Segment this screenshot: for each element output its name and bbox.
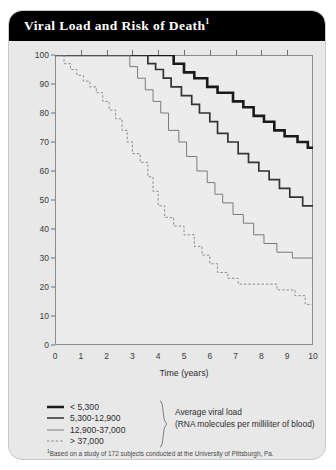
legend-items: < 5,3005,300-12,90012,900-37,000> 37,000 — [47, 401, 159, 447]
x-tick-label: 2 — [104, 351, 109, 361]
legend-line-swatch — [47, 427, 64, 433]
y-tick-label: 50 — [40, 195, 49, 205]
legend-line-swatch — [47, 438, 64, 444]
x-tick-label: 4 — [156, 351, 161, 361]
y-tick-mark — [51, 113, 55, 114]
x-tick-mark — [132, 50, 133, 55]
y-tick-label: 30 — [40, 253, 49, 263]
x-axis-title: Time (years) — [55, 368, 313, 378]
y-tick-mark — [51, 200, 55, 201]
x-tick-mark — [261, 50, 262, 55]
y-tick-label: 20 — [40, 282, 49, 292]
legend-note: Average viral load (RNA molecules per mi… — [175, 407, 315, 430]
y-tick-label: 0 — [44, 340, 49, 350]
y-tick-mark — [51, 316, 55, 317]
x-tick-mark — [287, 50, 288, 55]
x-tick-mark — [184, 50, 185, 55]
y-tick-mark — [51, 287, 55, 288]
x-tick-label: 5 — [182, 351, 187, 361]
y-tick-label: 70 — [40, 137, 49, 147]
x-tick-label: 9 — [285, 351, 290, 361]
legend-item: 5,300-12,900 — [47, 413, 159, 425]
y-tick-label: 10 — [40, 311, 49, 321]
legend-note-line-2: (RNA molecules per milliliter of blood) — [175, 419, 315, 431]
legend-item-label: 12,900-37,000 — [70, 425, 125, 435]
y-tick-label: 90 — [40, 79, 49, 89]
legend-item-label: < 5,300 — [70, 402, 99, 412]
y-tick-mark — [51, 84, 55, 85]
y-tick-label: 60 — [40, 166, 49, 176]
legend-item: < 5,300 — [47, 401, 159, 413]
y-axis-title: Percentage of HIV-infected individuals s… — [18, 10, 30, 55]
y-tick-mark — [51, 142, 55, 143]
plot-area: 0102030405060708090100 012345678910 — [55, 55, 313, 345]
footnote-text: Based on a study of 172 subjects conduct… — [50, 450, 274, 457]
title-bar: Viral Load and Risk of Death1 — [9, 11, 325, 41]
x-tick-mark — [158, 50, 159, 55]
x-tick-label: 0 — [53, 351, 58, 361]
y-tick-label: 100 — [35, 50, 49, 60]
legend-line-swatch — [47, 404, 64, 410]
chart-card: Viral Load and Risk of Death1 Percentage… — [8, 10, 326, 460]
y-tick-mark — [51, 171, 55, 172]
x-tick-label: 10 — [308, 351, 317, 361]
x-tick-label: 8 — [259, 351, 264, 361]
y-tick-label: 40 — [40, 224, 49, 234]
x-tick-mark — [107, 50, 108, 55]
legend-item: > 37,000 — [47, 436, 159, 448]
x-tick-label: 7 — [233, 351, 238, 361]
x-tick-mark — [236, 50, 237, 55]
y-tick-mark — [51, 345, 55, 346]
legend-item: 12,900-37,000 — [47, 424, 159, 436]
x-tick-mark — [81, 50, 82, 55]
page-title: Viral Load and Risk of Death1 — [24, 17, 210, 34]
legend-item-label: 5,300-12,900 — [70, 413, 121, 423]
footnote: 1Based on a study of 172 subjects conduc… — [47, 448, 274, 457]
x-tick-label: 6 — [207, 351, 212, 361]
legend-line-swatch — [47, 415, 64, 421]
title-footnote-marker: 1 — [205, 17, 209, 26]
y-tick-mark — [51, 55, 55, 56]
x-tick-mark — [210, 50, 211, 55]
x-tick-label: 1 — [78, 351, 83, 361]
y-axis-title-text: Percentage of HIV-infected individuals s… — [19, 10, 28, 55]
legend-item-label: > 37,000 — [70, 436, 104, 446]
y-tick-mark — [51, 229, 55, 230]
chart-series-line — [55, 55, 313, 148]
y-tick-mark — [51, 258, 55, 259]
x-tick-label: 3 — [130, 351, 135, 361]
chart-canvas — [55, 55, 313, 345]
y-tick-label: 80 — [40, 108, 49, 118]
page-title-text: Viral Load and Risk of Death — [24, 18, 205, 33]
legend-brace-icon — [159, 400, 169, 448]
legend-note-line-1: Average viral load — [175, 407, 315, 419]
